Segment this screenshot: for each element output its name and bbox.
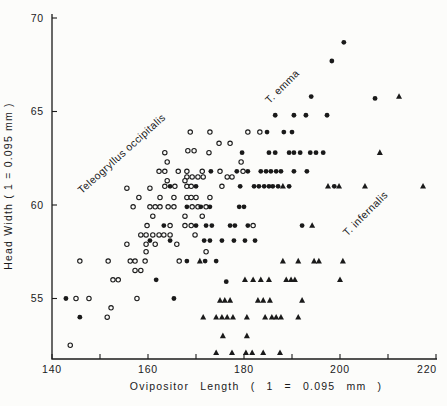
data-point-open-circle	[220, 184, 224, 188]
data-point-triangle	[283, 277, 289, 283]
data-point-triangle	[280, 258, 286, 264]
data-point-open-circle	[144, 250, 148, 254]
data-point-filled-circle	[274, 169, 279, 174]
data-point-open-circle	[125, 186, 129, 190]
data-point-open-circle	[207, 150, 211, 154]
y-tick-label: 60	[31, 199, 44, 211]
data-point-open-circle	[157, 233, 161, 237]
data-point-open-circle	[111, 278, 115, 282]
data-point-open-circle	[189, 195, 193, 199]
data-point-filled-circle	[232, 223, 237, 228]
data-point-triangle	[244, 314, 250, 320]
data-point-filled-circle	[332, 184, 337, 189]
data-point-open-circle	[189, 184, 193, 188]
data-point-triangle	[299, 297, 305, 303]
data-point-filled-circle	[64, 296, 69, 301]
x-tick-label: 160	[138, 363, 158, 375]
data-point-filled-circle	[298, 150, 303, 155]
data-point-filled-circle	[341, 40, 346, 45]
data-point-open-circle	[168, 233, 172, 237]
data-point-triangle	[213, 349, 219, 355]
data-point-triangle	[244, 333, 250, 339]
data-point-open-circle	[139, 268, 143, 272]
data-point-open-circle	[165, 178, 169, 182]
data-point-filled-circle	[202, 238, 207, 243]
data-point-filled-circle	[238, 184, 243, 189]
data-point-open-circle	[185, 195, 189, 199]
data-point-open-circle	[176, 169, 180, 173]
data-point-filled-circle	[245, 223, 250, 228]
data-point-open-circle	[74, 296, 78, 300]
data-point-filled-circle	[290, 130, 295, 135]
data-point-filled-circle	[224, 279, 229, 284]
data-point-open-circle	[172, 205, 176, 209]
data-point-triangle	[217, 297, 223, 303]
data-point-filled-circle	[281, 130, 286, 135]
data-point-open-circle	[208, 195, 212, 199]
data-point-triangle	[197, 258, 203, 264]
data-point-open-circle	[143, 259, 147, 263]
data-point-open-circle	[251, 223, 255, 227]
data-point-triangle	[230, 314, 236, 320]
data-point-triangle	[229, 349, 235, 355]
data-point-filled-circle	[256, 184, 261, 189]
data-point-open-circle	[151, 233, 155, 237]
data-point-open-circle	[106, 259, 110, 263]
data-point-open-circle	[144, 233, 148, 237]
data-point-triangle	[336, 183, 342, 189]
x-axis-title: Ovipositor Length ( 1 = 0.095 mm )	[130, 380, 382, 392]
data-point-open-circle	[163, 150, 167, 154]
data-point-triangle	[262, 314, 268, 320]
data-point-triangle	[213, 314, 219, 320]
data-point-triangle	[325, 183, 331, 189]
data-point-open-circle	[183, 214, 187, 218]
data-point-triangle	[295, 314, 301, 320]
data-point-triangle	[258, 277, 264, 283]
data-point-filled-circle	[292, 169, 297, 174]
data-point-open-circle	[183, 178, 187, 182]
data-point-open-circle	[189, 223, 193, 227]
data-point-open-circle	[168, 223, 172, 227]
data-point-filled-circle	[273, 150, 278, 155]
data-point-filled-circle	[258, 169, 263, 174]
data-point-filled-circle	[148, 238, 153, 243]
data-point-open-circle	[193, 233, 197, 237]
data-point-filled-circle	[268, 169, 273, 174]
data-point-open-circle	[246, 130, 250, 134]
data-point-open-circle	[165, 160, 169, 164]
data-point-triangle	[219, 314, 225, 320]
data-point-filled-circle	[240, 150, 245, 155]
data-point-open-circle	[153, 205, 157, 209]
data-point-open-circle	[157, 169, 161, 173]
data-point-filled-circle	[208, 204, 213, 209]
data-point-filled-circle	[270, 184, 275, 189]
data-point-open-circle	[158, 195, 162, 199]
data-point-open-circle	[258, 130, 262, 134]
data-point-triangle	[222, 297, 228, 303]
data-point-filled-circle	[329, 59, 334, 64]
data-point-triangle	[220, 333, 226, 339]
occipitalis-label: Teleogryllus occipitalis	[75, 111, 167, 196]
data-point-filled-circle	[292, 150, 297, 155]
emma-label: T. emma	[263, 67, 302, 106]
data-point-open-circle	[148, 205, 152, 209]
data-point-filled-circle	[243, 238, 248, 243]
data-point-open-circle	[196, 175, 200, 179]
data-point-open-circle	[109, 306, 113, 310]
data-point-triangle	[295, 258, 301, 264]
data-point-filled-circle	[237, 204, 242, 209]
data-point-triangle	[266, 277, 272, 283]
data-point-filled-circle	[304, 169, 309, 174]
data-point-filled-circle	[161, 223, 166, 228]
data-point-filled-circle	[194, 223, 199, 228]
data-point-open-circle	[175, 242, 179, 246]
scatter-plot-canvas: 14016018020022055606570Ovipositor Length…	[0, 0, 447, 406]
data-point-filled-circle	[265, 130, 270, 135]
data-point-open-circle	[158, 205, 162, 209]
data-point-filled-circle	[208, 169, 213, 174]
data-point-open-circle	[133, 259, 137, 263]
data-point-filled-circle	[232, 238, 237, 243]
data-point-open-circle	[183, 223, 187, 227]
data-point-triangle	[280, 183, 286, 189]
data-point-open-circle	[166, 205, 170, 209]
